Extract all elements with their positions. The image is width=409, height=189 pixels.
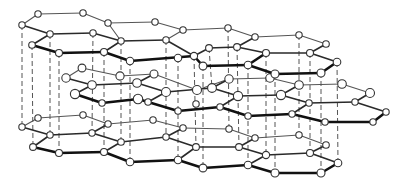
carbon-atom <box>150 117 156 123</box>
carbon-bond <box>120 74 154 76</box>
carbon-bond <box>155 22 183 30</box>
carbon-bond <box>310 153 338 163</box>
carbon-atom <box>236 144 243 151</box>
interlayer-line <box>32 45 33 147</box>
carbon-atom <box>62 74 70 82</box>
carbon-atom <box>19 22 25 28</box>
carbon-atom <box>252 34 258 40</box>
carbon-atom <box>126 158 134 166</box>
carbon-bond <box>355 102 386 112</box>
carbon-atom <box>145 99 151 105</box>
carbon-bond <box>299 84 342 85</box>
carbon-atom <box>338 80 347 89</box>
carbon-bond <box>148 102 178 111</box>
carbon-atom <box>370 119 376 125</box>
carbon-atom <box>78 64 86 72</box>
carbon-atom <box>263 50 270 57</box>
carbon-atom <box>352 99 358 105</box>
carbon-bond <box>50 33 93 34</box>
carbon-atom <box>383 109 389 115</box>
carbon-atom <box>208 84 217 93</box>
carbon-atom <box>47 132 53 138</box>
carbon-atom <box>30 144 37 151</box>
carbon-atom <box>234 44 241 51</box>
carbon-bond <box>203 165 248 168</box>
carbon-bond <box>203 65 248 66</box>
carbon-bond <box>309 102 355 103</box>
carbon-atom <box>163 37 169 43</box>
carbon-atom <box>271 70 279 78</box>
carbon-bond <box>248 114 292 116</box>
carbon-bond <box>255 35 299 37</box>
carbon-atom <box>99 100 105 106</box>
carbon-bond <box>154 74 197 90</box>
carbon-bond <box>59 52 104 53</box>
carbon-atom <box>175 108 181 114</box>
carbon-bond <box>121 40 166 41</box>
carbon-bond <box>92 83 137 85</box>
interlayer-line <box>209 48 212 88</box>
carbon-atom <box>118 139 125 146</box>
carbon-atom <box>174 54 181 61</box>
carbon-atom <box>323 142 330 149</box>
carbon-atom <box>116 72 124 80</box>
carbon-bond <box>38 13 83 14</box>
carbon-atom <box>193 144 200 151</box>
carbon-bond <box>220 107 248 116</box>
carbon-atom <box>306 100 312 106</box>
carbon-atom <box>226 126 232 132</box>
carbon-atom <box>118 38 124 44</box>
carbon-atom <box>163 134 169 140</box>
carbon-bond <box>82 68 120 76</box>
carbon-bond <box>266 153 310 155</box>
carbon-atom <box>56 150 63 157</box>
carbon-atom <box>276 90 285 99</box>
carbon-atom <box>217 104 223 110</box>
carbon-atom <box>101 49 108 56</box>
carbon-bond <box>93 33 121 41</box>
carbon-atom <box>29 42 36 49</box>
carbon-atom <box>19 124 25 130</box>
carbon-bond <box>22 127 50 135</box>
carbon-atom <box>193 86 202 95</box>
carbon-bond <box>209 47 237 48</box>
bottom-layer <box>19 112 342 177</box>
carbon-atom <box>180 27 186 33</box>
middle-layer <box>62 64 389 125</box>
carbon-bond <box>166 88 212 92</box>
carbon-bond <box>130 56 194 61</box>
carbon-bond <box>32 45 59 53</box>
carbon-atom <box>70 89 79 98</box>
carbon-atom <box>262 151 269 158</box>
carbon-atom <box>133 79 142 88</box>
carbon-atom <box>174 156 181 163</box>
carbon-bond <box>92 133 121 142</box>
carbon-atom <box>252 135 258 141</box>
carbon-atom <box>80 112 86 118</box>
carbon-atom <box>295 81 304 90</box>
carbon-atom <box>180 125 186 131</box>
carbon-atom <box>162 88 171 97</box>
carbon-bond <box>130 160 178 162</box>
carbon-atom <box>366 89 375 98</box>
carbon-atom <box>56 50 63 57</box>
carbon-atom <box>323 41 330 48</box>
carbon-atom <box>317 169 325 177</box>
interlayer-line <box>337 62 338 163</box>
carbon-atom <box>150 70 158 78</box>
carbon-atom <box>88 81 97 90</box>
carbon-bond <box>255 135 299 138</box>
carbon-atom <box>334 159 342 167</box>
carbon-bond <box>38 115 83 118</box>
carbon-atom <box>105 20 111 26</box>
carbon-atom <box>133 94 142 103</box>
carbon-atom <box>105 121 111 127</box>
carbon-atom <box>289 111 295 117</box>
carbon-atom <box>35 11 41 17</box>
carbon-atom <box>271 169 279 177</box>
carbon-atom <box>225 75 233 83</box>
carbon-bond <box>183 128 229 129</box>
carbon-bond <box>229 129 255 138</box>
carbon-atom <box>233 91 242 100</box>
carbon-atom <box>307 50 314 57</box>
